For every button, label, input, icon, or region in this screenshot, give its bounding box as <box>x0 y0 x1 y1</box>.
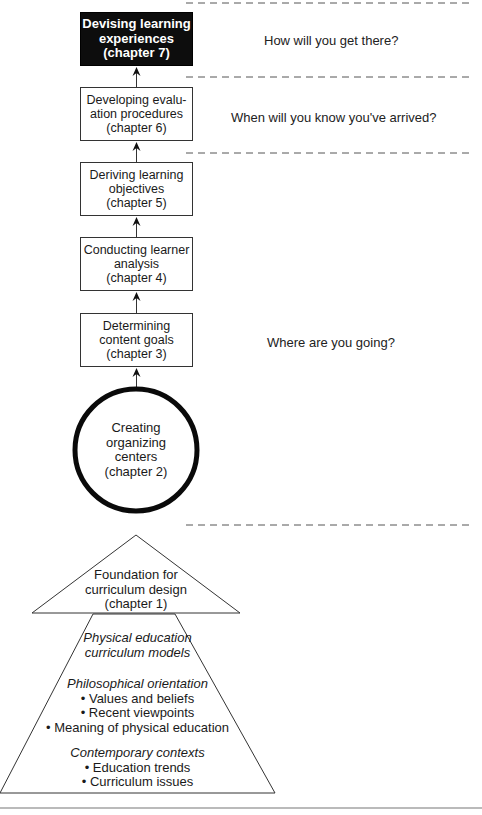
circle-text: centers <box>115 450 158 465</box>
step-text: Devising learning <box>82 17 190 32</box>
step-box-devising-learning-experiences: Devising learning experiences (chapter 7… <box>80 12 193 66</box>
step-box-learner-analysis: Conducting learner analysis (chapter 4) <box>80 237 193 291</box>
organizing-centers-label: Creating organizing centers (chapter 2) <box>72 387 200 513</box>
base-bullet: • Values and beliefs <box>0 692 275 707</box>
base-bullet: • Education trends <box>0 761 275 776</box>
question-where-going: Where are you going? <box>267 335 395 350</box>
base-heading: curriculum models <box>0 646 275 661</box>
foundation-text: curriculum design <box>32 583 240 598</box>
step-text: Deriving learning <box>90 168 184 182</box>
base-group-contemporary-contexts: Contemporary contexts • Education trends… <box>0 746 275 790</box>
step-box-deriving-objectives: Deriving learning objectives (chapter 5) <box>80 162 193 216</box>
step-text: content goals <box>99 333 173 347</box>
base-group-philosophical-orientation: Philosophical orientation • Values and b… <box>0 677 275 735</box>
foundation-text: Foundation for <box>32 568 240 583</box>
question-how-get-there: How will you get there? <box>264 33 398 48</box>
foundation-label: Foundation for curriculum design (chapte… <box>32 568 240 612</box>
step-text: Developing evalu- <box>86 93 186 107</box>
base-bullet: • Recent viewpoints <box>0 706 275 721</box>
base-bullet: • Meaning of physical education <box>0 721 275 736</box>
step-chapter: (chapter 4) <box>106 271 166 285</box>
base-heading: Physical education <box>0 631 275 646</box>
step-chapter: (chapter 3) <box>106 347 166 361</box>
foundation-chapter: (chapter 1) <box>32 597 240 612</box>
question-when-arrived: When will you know you've arrived? <box>231 110 437 125</box>
step-text: ation procedures <box>90 107 183 121</box>
step-text: Determining <box>103 319 170 333</box>
base-heading: Philosophical orientation <box>0 677 275 692</box>
step-text: Conducting learner <box>84 243 190 257</box>
step-text: experiences <box>99 32 174 47</box>
step-box-content-goals: Determining content goals (chapter 3) <box>80 313 193 367</box>
step-text: objectives <box>109 182 165 196</box>
step-box-developing-evaluation: Developing evalu- ation procedures (chap… <box>80 87 193 141</box>
step-chapter: (chapter 5) <box>106 196 166 210</box>
step-chapter: (chapter 7) <box>103 46 169 61</box>
base-bullet: • Curriculum issues <box>0 775 275 790</box>
circle-chapter: (chapter 2) <box>105 465 168 480</box>
circle-text: organizing <box>106 436 166 451</box>
base-heading: Contemporary contexts <box>0 746 275 761</box>
step-chapter: (chapter 6) <box>106 121 166 135</box>
base-group-curriculum-models: Physical education curriculum models <box>0 631 275 660</box>
step-text: analysis <box>114 257 159 271</box>
circle-text: Creating <box>111 421 160 436</box>
